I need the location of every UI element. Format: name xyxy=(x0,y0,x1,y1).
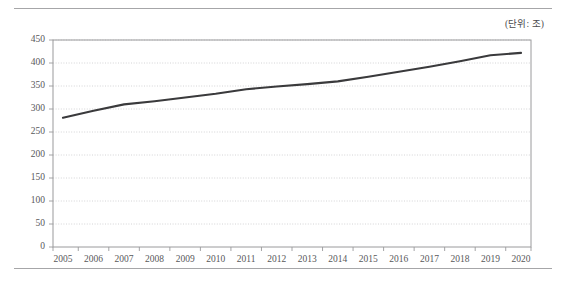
y-tick-marks xyxy=(49,40,53,247)
y-axis-tick-label: 150 xyxy=(11,173,45,183)
y-axis-tick-label: 50 xyxy=(11,219,45,229)
chart-figure: (단위: 조) 450400350300250200150100500 2005… xyxy=(0,0,566,282)
plot-area: 450400350300250200150100500 200520062007… xyxy=(0,0,566,282)
plot-frame xyxy=(53,40,531,247)
y-axis-tick-label: 300 xyxy=(11,104,45,114)
x-tick-marks xyxy=(53,247,531,251)
y-axis-tick-label: 350 xyxy=(11,81,45,91)
line-chart-svg xyxy=(0,0,566,282)
x-axis-tick-label: 2020 xyxy=(501,255,541,265)
gridlines-group xyxy=(53,40,531,224)
y-axis-tick-label: 200 xyxy=(11,150,45,160)
y-axis-tick-label: 100 xyxy=(11,196,45,206)
y-axis-tick-label: 450 xyxy=(11,35,45,45)
plot-border xyxy=(53,40,531,247)
y-axis-tick-label: 0 xyxy=(11,242,45,252)
y-axis-tick-label: 250 xyxy=(11,127,45,137)
y-axis-tick-label: 400 xyxy=(11,58,45,68)
